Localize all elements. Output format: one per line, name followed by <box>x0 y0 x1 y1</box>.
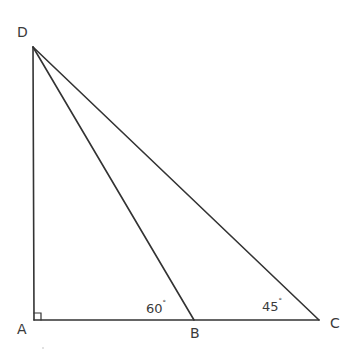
degree-symbol: ° <box>163 299 167 307</box>
degree-symbol: ° <box>279 297 283 305</box>
segment-DA <box>33 47 34 320</box>
vertex-label-C: C <box>330 316 340 330</box>
segment-DB <box>33 47 194 320</box>
vertex-label-D: D <box>17 25 28 39</box>
right-angle-marker <box>34 313 41 320</box>
angle-B-value: 60 <box>146 301 163 316</box>
vertex-label-A: A <box>17 322 27 336</box>
angle-C-value: 45 <box>262 299 279 314</box>
segment-DC <box>33 47 319 320</box>
triangle-diagram <box>0 0 359 359</box>
stray-dot <box>42 347 44 349</box>
angle-label-B: 60° <box>146 302 166 315</box>
vertex-label-B: B <box>190 326 200 340</box>
angle-label-C: 45° <box>262 300 282 313</box>
